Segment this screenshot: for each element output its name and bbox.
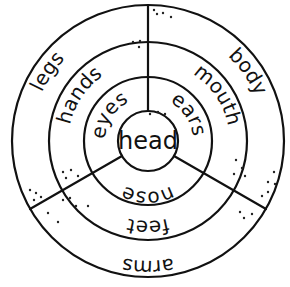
segment-feet: feet (124, 214, 171, 240)
segment-nose: nose (118, 181, 179, 211)
divider-lower-left (30, 156, 122, 209)
segment-arms: arms (120, 253, 176, 280)
word-wheel: head eyes ears nose hands mouth feet leg… (0, 0, 290, 287)
divider-lower-right (174, 156, 266, 209)
center-label-head: head (118, 127, 178, 155)
